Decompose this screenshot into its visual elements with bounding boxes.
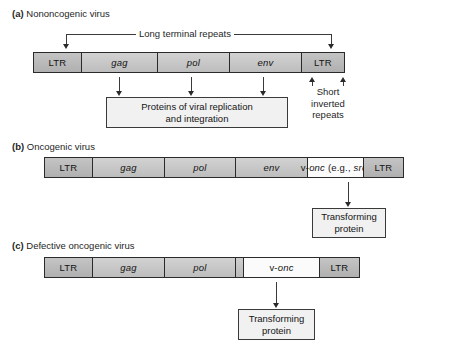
panel-c-product-arrow-stem [276, 282, 277, 305]
segment-pol: pol [165, 258, 236, 277]
ltr-callout-label: Long terminal repeats [136, 28, 234, 39]
segment-label: gag [120, 162, 136, 173]
segment-label: gag [111, 57, 127, 68]
panel-b-product-arrow-stem [348, 182, 349, 204]
panel-c-letter: (c) [12, 240, 24, 251]
segment-env: env [230, 53, 302, 72]
segment-pol: pol [165, 158, 236, 177]
v-onc-prefix: v- [301, 162, 309, 173]
segment-ltr-right: LTR [364, 158, 403, 177]
panel-b-genome-bar: LTR gag pol env v-onc (e.g., src) LTR [44, 157, 404, 178]
ltr-callout-right-arrowhead [328, 44, 334, 49]
retrovirus-genome-diagram: (a) Nononcogenic virus Long terminal rep… [0, 0, 454, 352]
segment-label: LTR [60, 262, 78, 273]
segment-env: env [236, 158, 308, 177]
panel-a-genome-bar: LTR gag pol env LTR [33, 52, 345, 73]
segment-ltr-right: LTR [320, 258, 359, 277]
proteins-box-line2: and integration [141, 113, 252, 125]
panel-c-genome-bar: LTR gag pol v-onc LTR [44, 257, 360, 278]
short-repeat-line3: repeats [312, 109, 344, 120]
proteins-of-viral-replication-box: Proteins of viral replication and integr… [106, 97, 288, 128]
segment-ltr-right: LTR [302, 53, 344, 72]
panel-c-product-arrowhead [273, 303, 279, 308]
panel-b-heading: (b) Oncogenic virus [12, 141, 95, 152]
segment-label: LTR [49, 57, 67, 68]
segment-ltr-left: LTR [34, 53, 82, 72]
panel-c-transforming-protein-box: Transforming protein [238, 309, 315, 340]
panel-a-letter: (a) [12, 8, 24, 19]
panel-b-title: Oncogenic virus [27, 141, 95, 152]
segment-ltr-left: LTR [45, 158, 93, 177]
pol-product-arrowhead [188, 91, 194, 96]
short-repeat-right-arrowhead [340, 77, 346, 82]
v-onc-gene: onc [278, 262, 294, 273]
panel-b-product-arrowhead [345, 202, 351, 207]
segment-label: LTR [314, 57, 332, 68]
transforming-protein-line2: protein [249, 325, 305, 337]
segment-label: pol [193, 262, 206, 273]
segment-gag: gag [82, 53, 158, 72]
short-inverted-repeats-label: Short inverted repeats [306, 86, 350, 121]
v-onc-prefix: v- [269, 262, 277, 273]
segment-label: gag [120, 262, 136, 273]
segment-gag: gag [93, 258, 165, 277]
short-repeat-line1: Short [317, 86, 340, 97]
transforming-protein-line1: Transforming [249, 313, 305, 325]
segment-label: LTR [375, 162, 393, 173]
segment-pol: pol [158, 53, 230, 72]
env-product-arrowhead [260, 91, 266, 96]
v-onc-gene: onc [309, 162, 325, 173]
v-onc-middle: (e.g., [325, 162, 354, 173]
short-repeat-line2: inverted [311, 98, 345, 109]
segment-gag: gag [93, 158, 165, 177]
segment-label: v-onc [269, 262, 293, 273]
panel-a-heading: (a) Nononcogenic virus [12, 8, 110, 19]
panel-b-transforming-protein-box: Transforming protein [312, 208, 386, 238]
panel-c-heading: (c) Defective oncogenic virus [12, 240, 135, 251]
panel-b-letter: (b) [12, 141, 24, 152]
ltr-callout-left-arrowhead [63, 44, 69, 49]
transforming-protein-line2: protein [321, 223, 377, 235]
panel-a-title: Nononcogenic virus [26, 8, 109, 19]
segment-label: pol [193, 162, 206, 173]
segment-v-onc: v-onc (e.g., src) [308, 158, 364, 177]
segment-deleted-region [236, 258, 244, 277]
segment-label: env [258, 57, 274, 68]
segment-v-onc: v-onc [244, 258, 320, 277]
short-repeat-left-arrowhead [309, 77, 315, 82]
segment-ltr-left: LTR [45, 258, 93, 277]
gag-product-arrowhead [116, 91, 122, 96]
segment-label: LTR [331, 262, 349, 273]
proteins-box-line1: Proteins of viral replication [141, 101, 252, 113]
segment-label: v-onc (e.g., src) [301, 162, 370, 173]
segment-label: pol [187, 57, 200, 68]
transforming-protein-line1: Transforming [321, 211, 377, 223]
panel-c-title: Defective oncogenic virus [26, 240, 134, 251]
segment-label: LTR [60, 162, 78, 173]
segment-label: env [264, 162, 280, 173]
